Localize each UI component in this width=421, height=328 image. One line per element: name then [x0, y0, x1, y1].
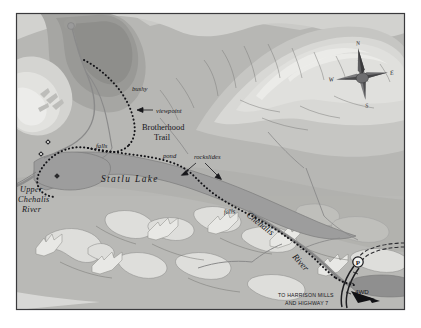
label-bushy: bushy — [132, 85, 147, 92]
map-figure: P bushy viewpoint — [0, 0, 421, 328]
label-brotherhood-trail-line1: Brotherhood — [142, 123, 185, 132]
label-4wd: 4WD — [355, 288, 369, 295]
label-statlu-lake: Statlu Lake — [101, 174, 159, 184]
label-falls-lower: falls — [224, 207, 236, 215]
label-to-highway-line1: TO HARRISON MILLS — [278, 292, 334, 298]
map-panel: P bushy viewpoint — [16, 13, 407, 310]
label-upper-chehalis-line3: River — [21, 205, 42, 214]
map-container: P bushy viewpoint — [0, 0, 421, 328]
label-rockslides: rockslides — [194, 153, 221, 160]
label-to-highway-line2: AND HIGHWAY 7 — [285, 300, 328, 306]
label-upper-chehalis-line1: Upper — [20, 185, 43, 194]
label-falls-upper: falls — [96, 142, 108, 149]
label-viewpoint: viewpoint — [156, 107, 182, 114]
label-upper-chehalis-line2: Chehalis — [18, 195, 50, 204]
label-brotherhood-trail-line2: Trail — [154, 133, 171, 142]
parking-marker[interactable]: P — [353, 257, 363, 267]
label-pond: pond — [162, 152, 177, 159]
parking-label: P — [356, 259, 361, 267]
